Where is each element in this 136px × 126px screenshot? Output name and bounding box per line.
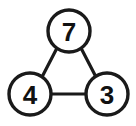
node-top[interactable]: 7 bbox=[48, 10, 90, 52]
node-graph-svg: 7 4 3 bbox=[0, 0, 136, 126]
node-bottom-right[interactable]: 3 bbox=[86, 73, 128, 115]
node-label-bottom-right: 3 bbox=[100, 80, 114, 110]
edge-top-to-bottom-right bbox=[81, 48, 96, 77]
node-bottom-left[interactable]: 4 bbox=[9, 73, 51, 115]
node-label-bottom-left: 4 bbox=[23, 80, 38, 110]
diagram-canvas: 7 4 3 bbox=[0, 0, 136, 126]
node-label-top: 7 bbox=[62, 17, 76, 47]
edge-top-to-bottom-left bbox=[42, 48, 57, 77]
